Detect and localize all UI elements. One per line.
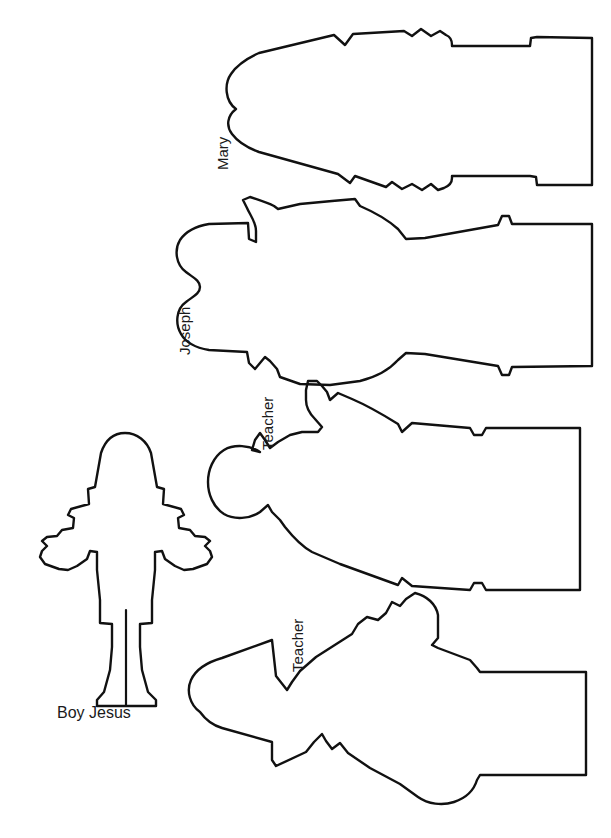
- figure-outline-joseph: [177, 197, 592, 385]
- figure-outline-teacher-2: [189, 593, 586, 804]
- figure-label-boy-jesus: Boy Jesus: [57, 704, 131, 721]
- figure-outline-mary: [227, 29, 592, 190]
- figure-label-teacher-1: Teacher: [259, 397, 276, 450]
- figure-label-joseph: Joseph: [176, 307, 193, 355]
- template-page: Mary Joseph Teacher Teacher Boy Jesus: [0, 0, 611, 838]
- figure-label-teacher-2: Teacher: [289, 619, 306, 672]
- figure-artboard: Mary Joseph Teacher Teacher Boy Jesus: [0, 0, 611, 838]
- figure-label-mary: Mary: [214, 136, 231, 170]
